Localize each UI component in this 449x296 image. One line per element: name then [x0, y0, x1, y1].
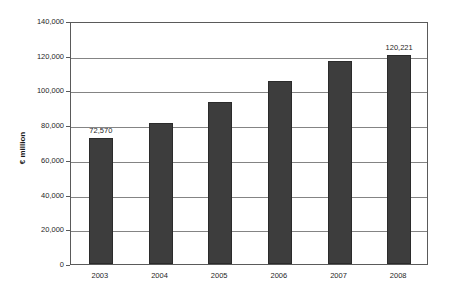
bar	[328, 61, 352, 264]
y-axis-tick-mark	[66, 265, 70, 266]
gridline	[71, 162, 427, 163]
bar	[149, 123, 173, 264]
gridline	[71, 58, 427, 59]
bar-chart: € million 020,00040,00060,00080,000100,0…	[0, 0, 449, 296]
y-axis-tick-label: 100,000	[4, 87, 64, 95]
gridline	[71, 197, 427, 198]
y-axis-tick-label: 140,000	[4, 18, 64, 26]
y-axis-title: € million	[16, 108, 30, 188]
bar	[387, 55, 411, 264]
x-axis-tick-label: 2004	[130, 271, 190, 280]
y-axis-tick-label: 20,000	[4, 226, 64, 234]
x-axis-tick-label: 2007	[309, 271, 369, 280]
data-label: 120,221	[369, 43, 429, 52]
gridline	[71, 231, 427, 232]
x-axis-tick-label: 2003	[70, 271, 130, 280]
y-axis-tick-label: 0	[4, 261, 64, 269]
y-axis-title-text: € million	[16, 108, 30, 188]
bar	[208, 102, 232, 264]
gridline	[71, 92, 427, 93]
plot-area: 72,570120,221	[70, 22, 428, 265]
x-axis-tick-label: 2008	[368, 271, 428, 280]
bar	[89, 138, 113, 264]
y-axis-tick-label: 80,000	[4, 122, 64, 130]
y-axis-tick-label: 120,000	[4, 53, 64, 61]
data-label: 72,570	[71, 126, 131, 135]
x-axis-tick-label: 2005	[189, 271, 249, 280]
bar	[268, 81, 292, 264]
y-axis-tick-label: 60,000	[4, 157, 64, 165]
x-axis-tick-label: 2006	[249, 271, 309, 280]
y-axis-tick-label: 40,000	[4, 192, 64, 200]
